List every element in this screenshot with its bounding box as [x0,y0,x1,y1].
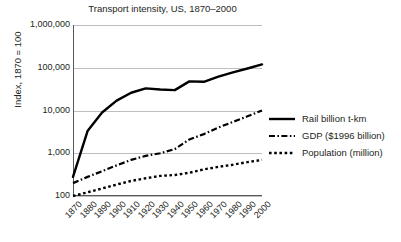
legend-item[interactable]: GDP ($1996 billion) [268,127,401,144]
legend-label: Population (million) [302,147,383,158]
legend-item[interactable]: Rail billion t-km [268,110,401,127]
chart-figure: Transport intensity, US, 1870–2000 Index… [0,0,401,242]
series-line [73,111,262,184]
legend-line-icon [268,147,296,159]
legend-line-icon [268,130,296,142]
legend-label: GDP ($1996 billion) [302,130,385,141]
legend-item[interactable]: Population (million) [268,144,401,161]
series-line [73,160,262,196]
x-tick: 2000 [226,199,266,211]
legend-line-icon [268,113,296,125]
legend-label: Rail billion t-km [302,113,366,124]
chart-legend: Rail billion t-kmGDP ($1996 billion)Popu… [268,110,401,161]
series-line [73,64,262,177]
